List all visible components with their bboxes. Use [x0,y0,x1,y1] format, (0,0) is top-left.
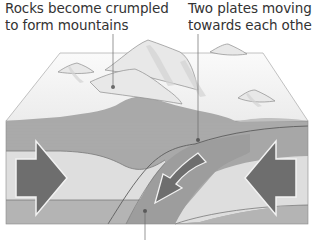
mountains-callout [111,85,115,89]
terrain-surface [6,40,308,122]
plate-boundary-callout [196,138,200,142]
plate-collision-diagram [0,0,312,240]
left-lower-layer [6,200,140,224]
